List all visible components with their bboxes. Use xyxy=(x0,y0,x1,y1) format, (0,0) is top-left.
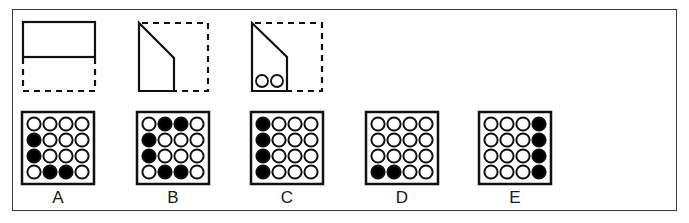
filled-hole-icon xyxy=(27,133,40,146)
empty-hole-icon xyxy=(272,165,285,178)
empty-hole-icon xyxy=(190,165,203,178)
filled-hole-icon xyxy=(158,117,171,130)
fold-step-3 xyxy=(252,23,322,91)
empty-hole-icon xyxy=(75,165,88,178)
empty-hole-icon xyxy=(403,117,416,130)
option-label: C xyxy=(251,188,323,208)
empty-hole-icon xyxy=(500,165,513,178)
empty-hole-icon xyxy=(387,117,400,130)
filled-hole-icon xyxy=(174,117,187,130)
empty-hole-icon xyxy=(403,133,416,146)
empty-hole-icon xyxy=(75,149,88,162)
empty-hole-icon xyxy=(190,117,203,130)
empty-hole-icon xyxy=(288,133,301,146)
empty-hole-icon xyxy=(75,117,88,130)
filled-hole-icon xyxy=(142,133,155,146)
empty-hole-icon xyxy=(142,117,155,130)
filled-hole-icon xyxy=(256,165,269,178)
empty-hole-icon xyxy=(403,149,416,162)
option-label: E xyxy=(479,188,551,208)
option-c[interactable] xyxy=(251,112,323,184)
empty-hole-icon xyxy=(516,117,529,130)
empty-hole-icon xyxy=(304,133,317,146)
filled-hole-icon xyxy=(158,165,171,178)
empty-hole-icon xyxy=(304,165,317,178)
empty-hole-icon xyxy=(516,149,529,162)
empty-hole-icon xyxy=(190,149,203,162)
empty-hole-icon xyxy=(288,165,301,178)
empty-hole-icon xyxy=(174,133,187,146)
fold-step-2 xyxy=(139,23,208,91)
empty-hole-icon xyxy=(387,133,400,146)
empty-hole-icon xyxy=(484,133,497,146)
filled-hole-icon xyxy=(174,165,187,178)
empty-hole-icon xyxy=(403,165,416,178)
option-d[interactable] xyxy=(366,112,438,184)
empty-hole-icon xyxy=(419,117,432,130)
empty-hole-icon xyxy=(288,117,301,130)
empty-hole-icon xyxy=(484,149,497,162)
empty-hole-icon xyxy=(371,133,384,146)
filled-hole-icon xyxy=(371,165,384,178)
empty-hole-icon xyxy=(59,117,72,130)
empty-hole-icon xyxy=(272,133,285,146)
filled-hole-icon xyxy=(43,165,56,178)
option-label: B xyxy=(137,188,209,208)
empty-hole-icon xyxy=(190,133,203,146)
puzzle-canvas xyxy=(0,0,689,223)
empty-hole-icon xyxy=(158,133,171,146)
empty-hole-icon xyxy=(500,133,513,146)
filled-hole-icon xyxy=(256,149,269,162)
punched-hole-icon xyxy=(256,75,268,87)
empty-hole-icon xyxy=(43,117,56,130)
option-e[interactable] xyxy=(479,112,551,184)
option-a[interactable] xyxy=(22,112,94,184)
empty-hole-icon xyxy=(75,133,88,146)
empty-hole-icon xyxy=(288,149,301,162)
filled-hole-icon xyxy=(142,149,155,162)
empty-hole-icon xyxy=(174,149,187,162)
empty-hole-icon xyxy=(484,117,497,130)
empty-hole-icon xyxy=(419,133,432,146)
empty-hole-icon xyxy=(142,165,155,178)
empty-hole-icon xyxy=(304,149,317,162)
option-label: A xyxy=(22,188,94,208)
filled-hole-icon xyxy=(27,149,40,162)
empty-hole-icon xyxy=(272,117,285,130)
punched-hole-icon xyxy=(271,75,283,87)
filled-hole-icon xyxy=(532,149,545,162)
empty-hole-icon xyxy=(272,149,285,162)
empty-hole-icon xyxy=(516,133,529,146)
filled-hole-icon xyxy=(387,165,400,178)
filled-hole-icon xyxy=(532,117,545,130)
empty-hole-icon xyxy=(27,117,40,130)
empty-hole-icon xyxy=(59,149,72,162)
empty-hole-icon xyxy=(27,165,40,178)
empty-hole-icon xyxy=(304,117,317,130)
empty-hole-icon xyxy=(59,133,72,146)
filled-hole-icon xyxy=(59,165,72,178)
empty-hole-icon xyxy=(43,149,56,162)
empty-hole-icon xyxy=(500,117,513,130)
empty-hole-icon xyxy=(484,165,497,178)
option-label: D xyxy=(366,188,438,208)
empty-hole-icon xyxy=(500,149,513,162)
filled-hole-icon xyxy=(256,117,269,130)
answer-options xyxy=(22,112,551,184)
empty-hole-icon xyxy=(43,133,56,146)
option-b[interactable] xyxy=(137,112,209,184)
empty-hole-icon xyxy=(158,149,171,162)
filled-hole-icon xyxy=(532,133,545,146)
empty-hole-icon xyxy=(371,149,384,162)
empty-hole-icon xyxy=(419,149,432,162)
filled-hole-icon xyxy=(256,133,269,146)
fold-step-1 xyxy=(23,22,95,91)
empty-hole-icon xyxy=(419,165,432,178)
filled-hole-icon xyxy=(532,165,545,178)
empty-hole-icon xyxy=(371,117,384,130)
empty-hole-icon xyxy=(387,149,400,162)
empty-hole-icon xyxy=(516,165,529,178)
